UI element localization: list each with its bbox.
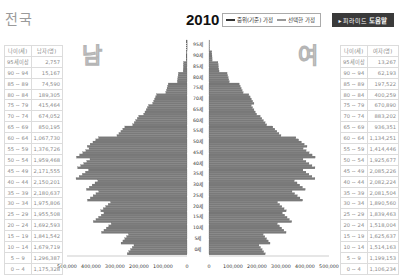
count-cell: 189,305	[31, 89, 62, 100]
age-cell: 90 ~ 94	[341, 67, 368, 78]
pyramid-bar	[155, 98, 187, 100]
count-cell: 1,067,730	[31, 133, 62, 144]
pyramid-bar	[209, 242, 270, 244]
count-cell: 1,514,163	[367, 242, 398, 253]
count-cell: 1,959,468	[31, 154, 62, 165]
pyramid-bar	[209, 249, 262, 251]
pyramid-bar	[209, 244, 259, 246]
pyramid-bar	[166, 92, 187, 94]
table-row: 50 ~ 541,959,468	[5, 154, 63, 165]
pyramid-bar	[89, 186, 187, 188]
age-cell: 35 ~ 39	[5, 187, 32, 198]
count-cell: 1,841,542	[31, 231, 62, 242]
pyramid-bar	[129, 234, 187, 236]
count-cell: 1,106,234	[367, 263, 398, 274]
age-cell: 15 ~ 19	[341, 231, 368, 242]
male-population-table: 나이(세) 남자(명) 95세이상2,75790 ~ 9415,16785 ~ …	[4, 45, 63, 275]
pyramid-bar	[209, 51, 212, 53]
age-cell: 5 ~ 9	[5, 252, 32, 263]
count-cell: 1,955,508	[31, 209, 62, 220]
count-cell: 1,134,251	[367, 133, 398, 144]
pyramid-bar	[178, 74, 187, 76]
pyramid-bar	[186, 59, 187, 61]
pyramid-bar	[178, 77, 187, 79]
pyramid-bar	[209, 59, 212, 61]
age-axis-label: 70세	[193, 95, 203, 102]
age-cell: 40 ~ 44	[341, 176, 368, 187]
pyramid-bar	[184, 62, 187, 64]
table-row: 35 ~ 392,081,504	[341, 187, 399, 198]
age-cell: 70 ~ 74	[341, 111, 368, 122]
pyramid-bar	[90, 158, 187, 160]
count-cell: 2,171,555	[31, 165, 62, 176]
pyramid-bar	[123, 128, 187, 130]
pyramid-bar	[178, 79, 187, 81]
pyramid-bar	[209, 62, 218, 64]
table-row: 20 ~ 241,518,004	[341, 220, 399, 231]
age-cell: 75 ~ 79	[5, 100, 32, 111]
female-count-header: 여자(명)	[367, 46, 398, 57]
age-axis-label: 80세	[193, 74, 203, 81]
pyramid-bar	[209, 70, 219, 72]
pyramid-bar	[209, 132, 279, 134]
pyramid-bar	[166, 89, 187, 91]
pyramid-bar	[99, 216, 187, 218]
pyramid-bar	[209, 199, 303, 201]
count-cell: 1,839,463	[367, 209, 398, 220]
table-row: 40 ~ 442,150,201	[5, 176, 63, 187]
pyramid-bar	[209, 55, 212, 57]
count-cell: 936,351	[367, 122, 398, 133]
pyramid-bar	[93, 195, 187, 197]
count-cell: 1,376,726	[31, 144, 62, 155]
age-cell: 95세이상	[341, 56, 368, 67]
age-axis-label: 0세	[195, 246, 202, 253]
table-row: 30 ~ 341,890,560	[341, 198, 399, 209]
pyramid-bar	[183, 68, 187, 70]
pyramid-bar	[209, 160, 306, 162]
pyramid-bar	[209, 212, 282, 214]
age-axis-label: 25세	[193, 192, 203, 199]
age-cell: 45 ~ 49	[5, 165, 32, 176]
table-row: 5 ~ 91,199,153	[341, 252, 399, 263]
count-cell: 2,757	[31, 56, 62, 67]
table-row: 85 ~ 89197,522	[341, 78, 399, 89]
table-row: 95세이상2,757	[5, 56, 63, 67]
pyramid-bar	[209, 150, 306, 152]
pyramid-bar	[209, 210, 286, 212]
pyramid-bar	[209, 148, 303, 150]
age-cell: 60 ~ 64	[341, 133, 368, 144]
age-cell: 75 ~ 79	[341, 100, 368, 111]
pyramid-bar	[209, 46, 210, 48]
pyramid-bar	[209, 135, 281, 137]
pyramid-bar	[144, 113, 187, 115]
age-cell: 30 ~ 34	[341, 198, 368, 209]
pyramid-bar	[209, 137, 296, 139]
pyramid-bar	[209, 191, 292, 193]
x-tick-label: 0	[207, 264, 210, 269]
count-cell: 62,193	[367, 67, 398, 78]
pyramid-bar	[99, 191, 187, 193]
age-cell: 65 ~ 69	[5, 122, 32, 133]
pyramid-bar	[209, 208, 284, 210]
table-row: 75 ~ 79415,464	[5, 100, 63, 111]
count-cell: 883,202	[367, 111, 398, 122]
female-population-table: 나이(세) 여자(명) 95세이상13,26790 ~ 9462,19385 ~…	[340, 45, 399, 275]
pyramid-bar	[168, 85, 187, 87]
pyramid-bar	[209, 96, 250, 98]
pyramid-bar	[209, 139, 299, 141]
x-tick-label: 300,000	[271, 264, 291, 269]
table-row: 20 ~ 241,692,593	[5, 220, 63, 231]
pyramid-bar	[96, 139, 187, 141]
table-row: 10 ~ 141,679,719	[5, 242, 63, 253]
pyramid-bar	[209, 165, 312, 167]
count-cell: 2,150,201	[31, 176, 62, 187]
pyramid-bar	[209, 122, 265, 124]
pyramid-bar	[209, 98, 251, 100]
pyramid-bar	[209, 163, 309, 165]
age-axis-label: 75세	[193, 84, 203, 91]
pyramid-bar	[178, 72, 187, 74]
count-cell: 1,975,806	[31, 198, 62, 209]
pyramid-bar	[209, 72, 227, 74]
pyramid-bar	[85, 171, 187, 173]
age-cell: 80 ~ 84	[341, 89, 368, 100]
